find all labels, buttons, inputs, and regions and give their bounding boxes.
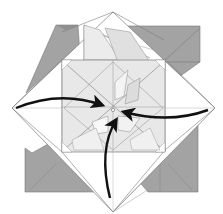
center-point (111, 108, 114, 111)
origami-diagram (0, 0, 223, 214)
central-square (62, 60, 165, 152)
